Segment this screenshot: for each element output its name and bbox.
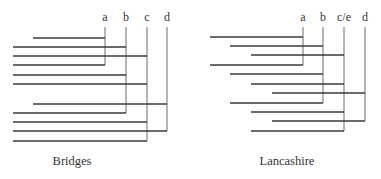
lancashire-caption: Lancashire bbox=[260, 154, 315, 168]
column-label: d bbox=[362, 10, 368, 24]
column-label: c bbox=[144, 10, 149, 24]
hierarchy-diagram: abcdBridges abc/edLancashire bbox=[0, 0, 381, 179]
column-label: b bbox=[320, 10, 326, 24]
bridges-panel: abcdBridges bbox=[13, 10, 170, 168]
column-label: a bbox=[102, 10, 108, 24]
lancashire-panel: abc/edLancashire bbox=[210, 10, 368, 168]
column-label: c/e bbox=[337, 10, 351, 24]
bridges-caption: Bridges bbox=[53, 154, 92, 168]
column-label: a bbox=[300, 10, 306, 24]
column-label: d bbox=[164, 10, 170, 24]
column-label: b bbox=[123, 10, 129, 24]
